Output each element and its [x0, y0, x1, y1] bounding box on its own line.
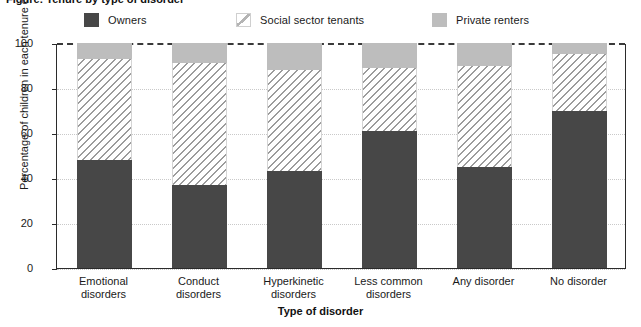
gridline-80 [57, 89, 625, 90]
bar-segment-owners[interactable] [457, 167, 512, 268]
bar-segment-owners[interactable] [362, 131, 417, 268]
x-category-line: disorders [334, 288, 444, 301]
x-category-label-5: Any disorder [429, 275, 539, 288]
x-category-line: Conduct [144, 275, 254, 288]
bar-segment-owners[interactable] [267, 171, 322, 268]
bar-segment-private[interactable] [267, 43, 322, 70]
x-category-line: Less common [334, 275, 444, 288]
bar-segment-private[interactable] [457, 43, 512, 66]
bar-5[interactable] [457, 43, 512, 268]
bar-segment-social[interactable] [267, 70, 322, 171]
bar-segment-private[interactable] [362, 43, 417, 68]
y-tick-40 [52, 179, 57, 180]
bar-segment-owners[interactable] [77, 160, 132, 268]
y-tick-100 [52, 44, 57, 45]
bar-segment-social[interactable] [77, 59, 132, 160]
x-category-label-2: Conductdisorders [144, 275, 254, 301]
x-category-line: disorders [49, 288, 159, 301]
bar-segment-social[interactable] [457, 66, 512, 167]
y-tick-label-20: 20 [0, 217, 33, 229]
x-category-line: Hyperkinetic [239, 275, 349, 288]
x-category-label-6: No disorder [524, 275, 634, 288]
bar-segment-social[interactable] [172, 63, 227, 185]
gridline-60 [57, 134, 625, 135]
x-category-line: disorders [239, 288, 349, 301]
bar-segment-social[interactable] [362, 68, 417, 131]
y-tick-0 [52, 269, 57, 270]
top-dashed-line [57, 43, 625, 45]
y-axis-title: Percentage of children in each tenure ca… [18, 0, 30, 216]
bar-segment-social[interactable] [552, 54, 607, 110]
x-category-line: disorders [144, 288, 254, 301]
x-category-label-3: Hyperkineticdisorders [239, 275, 349, 301]
bar-segment-private[interactable] [77, 43, 132, 59]
x-category-line: No disorder [524, 275, 634, 288]
gridline-20 [57, 224, 625, 225]
plot-area: 020406080100 [56, 44, 626, 269]
y-tick-label-0: 0 [0, 262, 33, 274]
gridline-0 [57, 269, 625, 270]
bar-segment-owners[interactable] [552, 111, 607, 269]
bar-segment-private[interactable] [552, 43, 607, 54]
bar-4[interactable] [362, 43, 417, 268]
bar-1[interactable] [77, 43, 132, 268]
x-category-label-4: Less commondisorders [334, 275, 444, 301]
bar-segment-owners[interactable] [172, 185, 227, 268]
bar-2[interactable] [172, 43, 227, 268]
x-category-label-1: Emotionaldisorders [49, 275, 159, 301]
x-axis-title: Type of disorder [0, 305, 641, 317]
y-tick-80 [52, 89, 57, 90]
bar-3[interactable] [267, 43, 322, 268]
bar-segment-private[interactable] [172, 43, 227, 63]
x-category-line: Any disorder [429, 275, 539, 288]
y-tick-60 [52, 134, 57, 135]
x-category-line: Emotional [49, 275, 159, 288]
bar-6[interactable] [552, 43, 607, 268]
y-tick-20 [52, 224, 57, 225]
stacked-bar-chart: 020406080100 Percentage of children in e… [0, 0, 641, 327]
gridline-40 [57, 179, 625, 180]
